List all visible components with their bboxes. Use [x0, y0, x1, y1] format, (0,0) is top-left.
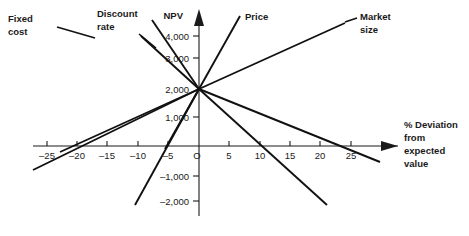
x-tick-label: 20 — [315, 150, 326, 161]
x-axis-arrow-icon — [381, 141, 398, 151]
x-tick-label: 15 — [285, 150, 296, 161]
label-market-size-line1: Market — [360, 11, 391, 22]
y-tick-label: 4,000 — [165, 31, 189, 42]
x-tick-label: 10 — [255, 150, 266, 161]
y-axis-arrow-icon — [194, 9, 204, 26]
x-tick-label: –15 — [99, 150, 115, 161]
y-tick-label: –1,000 — [160, 171, 189, 182]
x-tick-labels: –25 –20 –15 –10 –5 O 5 10 15 20 25 — [39, 150, 356, 161]
x-axis-title-line3: expected — [404, 145, 445, 156]
x-axis-title-line1: % Deviation — [404, 119, 458, 130]
y-tick-label: –2,000 — [160, 196, 189, 207]
label-fixed-cost-line2: cost — [8, 26, 28, 37]
x-tick-label: 5 — [226, 150, 231, 161]
series-line-discount-rate-right — [135, 89, 199, 205]
x-axis-title-line4: value — [404, 158, 428, 169]
origin-label: O — [193, 150, 200, 161]
x-axis-title-line2: from — [404, 132, 425, 143]
label-market-size-line2: size — [360, 24, 378, 35]
leader-fixed-cost — [57, 27, 95, 38]
series-line-price — [199, 16, 240, 89]
x-tick-label: –25 — [39, 150, 55, 161]
x-tick-label: –10 — [130, 150, 146, 161]
y-axis-title: NPV — [163, 10, 183, 21]
y-tick-group — [193, 36, 199, 201]
label-price: Price — [245, 11, 268, 22]
label-discount-rate-line2: rate — [97, 21, 114, 32]
axis-titles-group: NPV % Deviation from expected value — [163, 10, 458, 169]
sensitivity-lines-group — [33, 16, 380, 205]
spider-chart: –25 –20 –15 –10 –5 O 5 10 15 20 25 4,000… — [0, 0, 469, 236]
label-fixed-cost-line1: Fixed — [8, 13, 33, 24]
series-line-upper-left — [141, 36, 199, 89]
y-tick-label: 2,000 — [165, 84, 189, 95]
label-discount-rate-line1: Discount — [97, 8, 138, 19]
series-line-price-lower-right — [199, 89, 327, 205]
leader-market-size — [345, 18, 357, 22]
series-line-market-size — [199, 23, 345, 89]
leader-discount-rate — [139, 34, 156, 48]
axes-group — [33, 9, 398, 216]
chart-canvas: –25 –20 –15 –10 –5 O 5 10 15 20 25 4,000… — [0, 0, 469, 236]
